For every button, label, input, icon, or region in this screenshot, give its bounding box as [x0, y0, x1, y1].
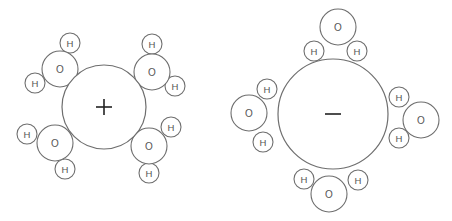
water-molecule: HHO	[304, 9, 367, 61]
hydrogen-label: H	[264, 84, 271, 95]
oxygen-label: O	[334, 22, 342, 33]
hydrogen-label: H	[172, 81, 179, 92]
hydrogen-label: H	[311, 46, 318, 57]
oxygen-label: O	[56, 64, 64, 75]
oxygen-label: O	[145, 141, 153, 152]
oxygen-label: O	[325, 189, 333, 200]
anion-group: HHOHHOHHOHHO	[231, 9, 439, 212]
hydrogen-label: H	[32, 78, 39, 89]
water-molecule: HHO	[389, 87, 439, 148]
water-molecule: HHO	[231, 79, 277, 152]
hydrogen-label: H	[146, 168, 153, 179]
hydrogen-label: H	[396, 92, 403, 103]
oxygen-label: O	[245, 108, 253, 119]
cation-group: HHOHHOHHOHHO	[17, 33, 185, 183]
hydrogen-label: H	[301, 174, 308, 185]
hydrogen-label: H	[67, 38, 74, 49]
hydrogen-label: H	[396, 133, 403, 144]
hydrogen-label: H	[149, 39, 156, 50]
oxygen-label: O	[148, 67, 156, 78]
hydrogen-label: H	[168, 122, 175, 133]
hydrogen-label: H	[24, 129, 31, 140]
water-molecule: HHO	[294, 169, 368, 212]
hydrogen-label: H	[354, 46, 361, 57]
hydrogen-label: H	[62, 164, 69, 175]
hydrogen-label: H	[260, 137, 267, 148]
hydrogen-label: H	[355, 175, 362, 186]
oxygen-label: O	[417, 115, 425, 126]
water-molecule: HHO	[134, 34, 185, 96]
oxygen-label: O	[51, 138, 59, 149]
hydration-diagram: HHOHHOHHOHHOHHOHHOHHOHHO	[0, 0, 452, 221]
water-molecule: HHO	[17, 124, 75, 179]
